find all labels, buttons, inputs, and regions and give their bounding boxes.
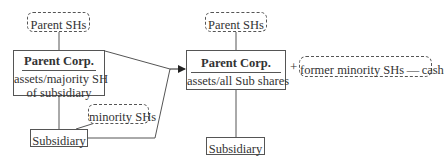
left-parent-corp-title: Parent Corp. <box>14 54 104 69</box>
right-parent-shs-label: Parent SHs <box>208 18 264 32</box>
left-parent-corp-line1: assets/majority SH <box>14 72 104 86</box>
left-parent-shs-label: Parent SHs <box>31 18 87 32</box>
right-subsidiary-node: Subsidiary <box>206 137 265 155</box>
former-minority-cash-label: former minority SHs — cash <box>300 63 444 77</box>
connector-parent-to-merge <box>105 51 170 69</box>
right-parent-corp-node: Parent Corp. assets/all Sub shares <box>186 50 286 90</box>
former-minority-cash-node: former minority SHs — cash <box>299 56 432 77</box>
left-parent-shs-node: Parent SHs <box>27 12 90 32</box>
left-parent-corp-line2: of subsidiary <box>14 86 104 100</box>
right-subsidiary-label: Subsidiary <box>209 142 262 156</box>
left-parent-corp-node: Parent Corp. assets/majority SH of subsi… <box>13 50 105 96</box>
plus-sign: + <box>290 59 297 75</box>
left-subsidiary-node: Subsidiary <box>30 129 88 147</box>
right-parent-corp-title: Parent Corp. <box>187 56 285 71</box>
left-subsidiary-label: Subsidiary <box>32 134 85 148</box>
right-parent-shs-node: Parent SHs <box>205 12 267 32</box>
left-parent-corp-divider <box>22 70 96 71</box>
minority-shs-label: minority SHs <box>89 110 156 124</box>
right-parent-corp-line1: assets/all Sub shares <box>187 74 285 88</box>
right-parent-corp-divider <box>191 72 281 73</box>
minority-shs-node: minority SHs <box>88 104 149 124</box>
